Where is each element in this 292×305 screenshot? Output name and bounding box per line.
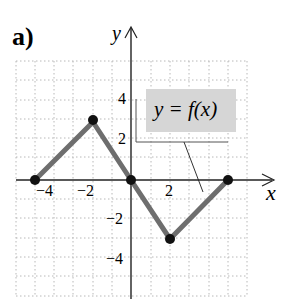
x-axis-label: x bbox=[266, 180, 276, 206]
y-tick-label: −2 bbox=[106, 210, 123, 228]
y-axis-label: y bbox=[112, 22, 121, 45]
x-tick-label: −4 bbox=[36, 182, 53, 200]
y-tick-label: 4 bbox=[118, 90, 126, 108]
x-tick-label: 2 bbox=[165, 182, 173, 200]
x-tick-label: −2 bbox=[77, 182, 94, 200]
y-tick-label: 2 bbox=[118, 130, 126, 148]
function-graph bbox=[0, 0, 292, 305]
y-tick-label: −4 bbox=[106, 250, 123, 268]
annotation-text: y = f(x) bbox=[154, 97, 217, 122]
